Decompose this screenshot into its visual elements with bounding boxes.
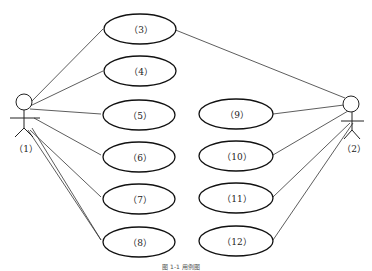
associations-actor-1 <box>28 29 103 240</box>
use-case-3-label: （3） <box>129 25 153 35</box>
actor-2[interactable] <box>341 96 364 139</box>
use-case-11-label: （11） <box>222 194 251 204</box>
assoc-2-10 <box>273 111 348 155</box>
assoc-2-11 <box>273 123 350 197</box>
assoc-1-6 <box>34 118 101 155</box>
assoc-1-4 <box>30 71 103 106</box>
actor-1-label: （1） <box>14 144 38 154</box>
use-case-7-label: （7） <box>128 195 152 205</box>
assoc-2-12 <box>273 123 353 240</box>
use-case-10-label: （10） <box>222 152 251 162</box>
actor-head-icon <box>343 96 359 112</box>
use-case-8-label: （8） <box>128 238 152 248</box>
actor-1[interactable] <box>10 94 40 137</box>
use-case-5-label: （5） <box>128 111 152 121</box>
assoc-1-8 <box>32 128 101 240</box>
use-case-9-label: （9） <box>225 110 249 120</box>
assoc-1-3 <box>30 29 103 103</box>
use-case-4-label: （4） <box>129 67 153 77</box>
actor-2-label: （2） <box>342 144 366 154</box>
figure-caption: 图 1-1 用例图 <box>162 263 200 271</box>
assoc-1-8-b <box>28 130 101 240</box>
assoc-1-5 <box>30 109 101 114</box>
use-case-6-label: （6） <box>128 153 152 163</box>
actor-head-icon <box>16 94 32 110</box>
use-case-diagram: （1） （2） （3） （4） （5） （6） （7） （8） （9） （10）… <box>0 0 372 271</box>
assoc-2-9 <box>273 105 344 114</box>
use-case-12-label: （12） <box>222 237 251 247</box>
assoc-2-3 <box>173 29 345 98</box>
